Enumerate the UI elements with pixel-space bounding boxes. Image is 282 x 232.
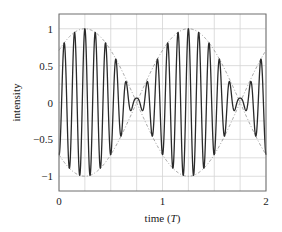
y-axis-ticks: −1−0.500.51	[33, 23, 53, 183]
y-axis-label: intensity	[10, 83, 22, 121]
x-axis-label-prefix: time (	[145, 212, 171, 225]
x-axis-label-suffix: )	[177, 212, 181, 225]
x-tick-label: 1	[160, 195, 166, 207]
grid-lines	[59, 14, 266, 191]
y-tick-label: −1	[41, 170, 53, 182]
y-tick-label: 0	[48, 97, 54, 109]
y-tick-label: 0.5	[39, 60, 53, 72]
chart-canvas: 012 −1−0.500.51 time (T) intensity	[0, 0, 282, 232]
y-tick-label: 1	[48, 23, 54, 35]
x-axis-ticks: 012	[56, 195, 269, 207]
x-tick-label: 2	[263, 195, 269, 207]
x-tick-label: 0	[56, 195, 62, 207]
x-axis-label: time (T)	[145, 212, 181, 225]
y-tick-label: −0.5	[33, 133, 53, 145]
